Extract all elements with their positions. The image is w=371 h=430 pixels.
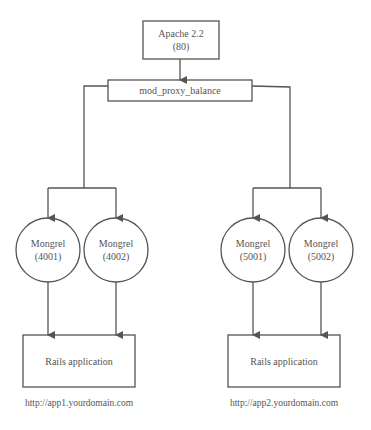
mongrel-name: Mongrel [16, 237, 80, 250]
app1-label: Rails application [23, 355, 135, 368]
app2-label: Rails application [228, 355, 340, 368]
mongrel-4002-label: Mongrel (4002) [84, 237, 148, 263]
mongrel-name: Mongrel [221, 237, 285, 250]
right-branch-connector [252, 86, 290, 188]
apache-label: Apache 2.2 (80) [143, 27, 219, 53]
apache-port: (80) [143, 40, 219, 53]
left-branch-connector [84, 86, 108, 188]
mongrel-port: (4002) [84, 250, 148, 263]
balancer-label: mod_proxy_balance [108, 84, 252, 97]
apache-title: Apache 2.2 [143, 27, 219, 40]
app2-url: http://app2.yourdomain.com [214, 397, 354, 410]
mongrel-name: Mongrel [289, 237, 353, 250]
mongrel-name: Mongrel [84, 237, 148, 250]
mongrel-5001-label: Mongrel (5001) [221, 237, 285, 263]
mongrel-4001-label: Mongrel (4001) [16, 237, 80, 263]
app1-url: http://app1.yourdomain.com [9, 397, 149, 410]
mongrel-port: (4001) [16, 250, 80, 263]
mongrel-port: (5002) [289, 250, 353, 263]
mongrel-port: (5001) [221, 250, 285, 263]
mongrel-5002-label: Mongrel (5002) [289, 237, 353, 263]
